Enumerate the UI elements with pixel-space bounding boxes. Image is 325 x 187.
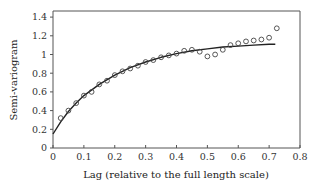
- data-point: [220, 47, 225, 52]
- y-axis-title: Semi-variogram: [8, 39, 19, 121]
- data-point: [213, 52, 218, 57]
- plot-border: [53, 11, 300, 148]
- x-tick-label: 0.4: [169, 151, 184, 162]
- plot-frame: [53, 11, 300, 148]
- x-tick-label: 0.5: [200, 151, 215, 162]
- y-axis: 00.20.40.60.811.21.4: [32, 11, 53, 153]
- data-point: [244, 39, 249, 44]
- fitted-model-curve: [53, 44, 275, 134]
- x-tick-label: 0.1: [76, 151, 91, 162]
- y-tick-label: 0.4: [32, 105, 47, 116]
- x-tick-label: 0: [50, 151, 56, 162]
- x-tick-label: 0.2: [107, 151, 122, 162]
- y-tick-label: 1.2: [32, 30, 47, 41]
- data-point: [236, 41, 241, 46]
- y-tick-label: 0.8: [32, 68, 47, 79]
- data-point: [267, 35, 272, 40]
- x-tick-label: 0.3: [138, 151, 153, 162]
- x-axis-title: Lag (relative to the full length scale): [83, 169, 269, 180]
- data-point: [251, 38, 256, 43]
- data-point: [58, 116, 63, 121]
- x-tick-label: 0.8: [292, 151, 307, 162]
- semivariogram-chart: 00.20.40.60.811.21.4 00.10.20.30.40.50.6…: [0, 0, 325, 187]
- x-tick-label: 0.7: [262, 151, 277, 162]
- fit-line-path: [53, 44, 275, 134]
- x-tick-label: 0.6: [231, 151, 246, 162]
- y-tick-label: 0.6: [32, 86, 47, 97]
- data-point: [205, 54, 210, 59]
- data-point: [259, 37, 264, 42]
- y-tick-label: 1.4: [32, 11, 47, 22]
- y-tick-label: 0: [41, 142, 47, 153]
- y-tick-label: 1: [41, 49, 47, 60]
- data-point: [274, 26, 279, 31]
- y-tick-label: 0.2: [32, 124, 47, 135]
- empirical-points: [58, 26, 279, 121]
